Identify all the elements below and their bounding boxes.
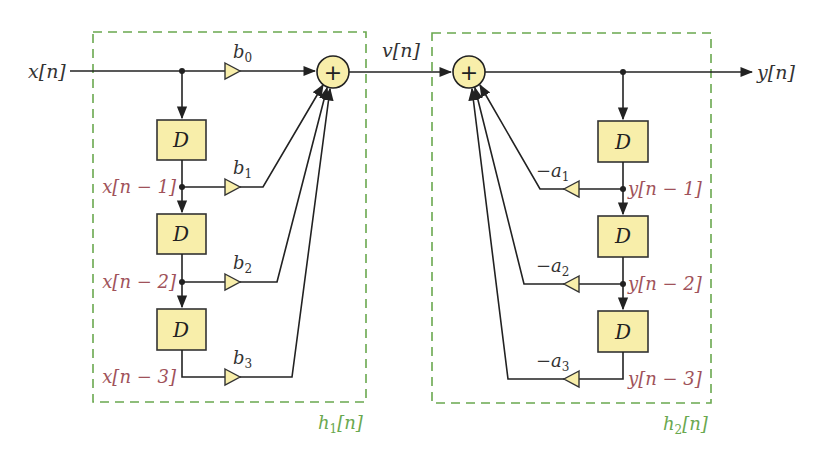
coef-a1: −a1 <box>536 160 569 184</box>
tap-label-y3: y[n − 3] <box>627 368 703 389</box>
delay-label: D <box>614 130 631 154</box>
coef-b2: b2 <box>233 252 252 276</box>
tap-label-y2: y[n − 2] <box>627 273 703 294</box>
iir-section-label: h2[n] <box>663 413 709 437</box>
filter-block-diagram: + + x[n] v[n] y[n] D D D D D D x[n − 1] … <box>0 0 816 458</box>
coef-a3: −a3 <box>536 350 569 374</box>
gain-b2-icon <box>225 274 240 290</box>
delay-label: D <box>614 320 631 344</box>
b2-feed-wire <box>240 88 327 282</box>
gain-b1-icon <box>225 179 240 195</box>
tap-label-x2: x[n − 2] <box>102 271 177 292</box>
b1-feed-wire <box>240 85 323 187</box>
delay-label: D <box>614 224 631 248</box>
tap3-wire <box>182 350 226 377</box>
delay-label: D <box>172 318 189 342</box>
tap-label-x1: x[n − 1] <box>102 176 177 197</box>
fir-section-label: h1[n] <box>318 412 364 436</box>
tap-label-x3: x[n − 3] <box>102 366 177 387</box>
gain-b3-icon <box>225 369 240 385</box>
coef-a2: −a2 <box>536 255 569 279</box>
fir-section-border <box>93 32 366 402</box>
gain-b0-icon <box>225 63 240 79</box>
delay-label: D <box>172 222 189 246</box>
coef-b3: b3 <box>233 347 252 371</box>
coef-b0: b0 <box>233 41 252 65</box>
adder-plus-label: + <box>460 60 478 85</box>
tap-label-y1: y[n − 1] <box>627 178 703 199</box>
adder-plus-label: + <box>324 60 342 85</box>
delay-label: D <box>172 128 189 152</box>
coef-b1: b1 <box>233 157 252 181</box>
intermediate-signal-label: v[n] <box>382 39 420 61</box>
input-signal-label: x[n] <box>28 60 66 82</box>
iir-section-border <box>432 33 711 403</box>
b3-feed-wire <box>240 89 330 377</box>
tap3-wire <box>579 352 623 379</box>
output-signal-label: y[n] <box>756 61 795 83</box>
